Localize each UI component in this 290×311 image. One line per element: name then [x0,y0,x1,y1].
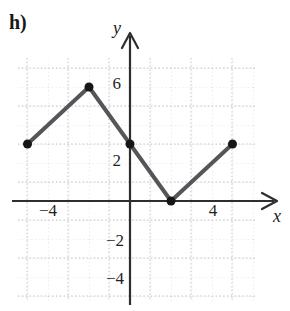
x-tick-label-neg4: −4 [39,201,58,220]
figure-container: h) [0,0,290,311]
y-axis-label: y [111,18,121,38]
data-point [126,140,135,149]
grid-lines [18,58,255,301]
y-tick-label-6: 6 [113,74,122,93]
y-tick-label-neg2: −2 [106,231,124,250]
y-tick-label-neg4: −4 [106,269,125,288]
y-tick-label-2: 2 [113,151,122,170]
data-point [85,83,94,92]
graph-plot: y x 6 2 −2 −4 −4 4 [0,0,290,311]
data-point [228,140,237,149]
data-point [23,140,32,149]
grid-area [18,58,255,301]
x-axis-label: x [272,206,281,226]
data-point [167,197,176,206]
x-tick-label-4: 4 [209,201,218,220]
